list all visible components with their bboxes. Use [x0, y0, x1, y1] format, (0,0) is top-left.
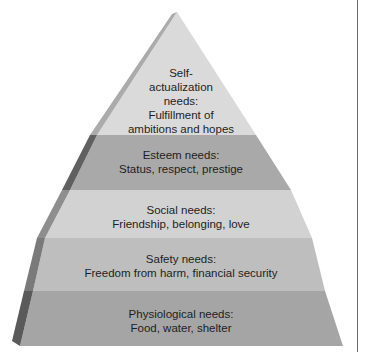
label-line: Friendship, belonging, love — [112, 217, 249, 231]
label-line: Food, water, shelter — [129, 321, 234, 335]
label-line: Esteem needs: — [119, 148, 243, 162]
label-esteem: Esteem needs: Status, respect, prestige — [119, 148, 243, 176]
label-line: Physiological needs: — [129, 307, 234, 321]
page-edge-divider — [357, 0, 358, 352]
label-safety: Safety needs: Freedom from harm, financi… — [84, 252, 277, 280]
label-line: actualization — [128, 80, 234, 94]
label-line: Self- — [128, 66, 234, 80]
label-line: Safety needs: — [84, 252, 277, 266]
label-social: Social needs: Friendship, belonging, lov… — [112, 203, 249, 231]
label-self-actualization: Self- actualization needs: Fulfillment o… — [128, 66, 234, 136]
label-line: Freedom from harm, financial security — [84, 266, 277, 280]
label-line: needs: — [128, 94, 234, 108]
label-line: ambitions and hopes — [128, 122, 234, 136]
maslow-pyramid-diagram: Self- actualization needs: Fulfillment o… — [0, 0, 365, 363]
label-line: Fulfillment of — [128, 108, 234, 122]
label-physiological: Physiological needs: Food, water, shelte… — [129, 307, 234, 335]
label-line: Social needs: — [112, 203, 249, 217]
label-line: Status, respect, prestige — [119, 162, 243, 176]
